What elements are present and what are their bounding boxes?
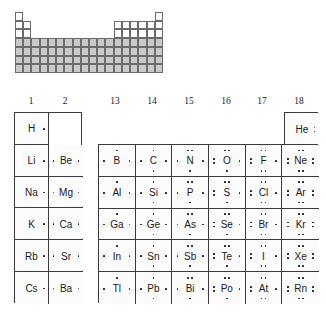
valence-electron-dot — [312, 194, 314, 196]
mini-table-cell — [40, 64, 48, 73]
valence-electron-dot — [312, 226, 314, 228]
valence-electron-dot — [265, 150, 267, 152]
valence-electron-dot — [202, 288, 204, 290]
valence-electron-dot — [213, 190, 215, 192]
mini-table-cell — [155, 38, 163, 47]
valence-electron-dot — [287, 226, 289, 228]
element-cell-Be[interactable]: Be — [49, 145, 83, 177]
element-cell-Sb[interactable]: Sb — [172, 240, 209, 272]
lewis-symbol-Ge: Ge — [136, 211, 170, 237]
valence-electron-dot — [53, 160, 55, 162]
valence-electron-dot — [312, 190, 314, 192]
element-cell-Pb[interactable]: Pb — [136, 272, 173, 304]
mini-table-cell — [114, 47, 122, 56]
mini-table-cell — [15, 56, 23, 65]
mini-table-cell — [122, 38, 130, 47]
lewis-symbol-Rn: Rn — [284, 275, 318, 301]
element-symbol-F: F — [260, 155, 266, 166]
element-cell-Br[interactable]: Br — [246, 209, 283, 241]
lewis-symbol-N: N — [173, 147, 207, 173]
mini-table-cell — [97, 56, 105, 65]
element-cell-Rn[interactable]: Rn — [282, 272, 319, 304]
valence-electron-dot — [191, 181, 193, 183]
element-cell-In[interactable]: In — [99, 240, 136, 272]
element-cell-O[interactable]: O — [209, 145, 246, 177]
element-symbol-C: C — [150, 155, 157, 166]
valence-electron-dot — [140, 255, 142, 257]
element-cell-At[interactable]: At — [246, 272, 283, 304]
element-cell-Ge[interactable]: Ge — [136, 209, 173, 241]
element-symbol-Na: Na — [25, 187, 38, 198]
valence-electron-dot — [226, 265, 228, 267]
element-cell-Kr[interactable]: Kr — [282, 209, 319, 241]
element-symbol-Al: Al — [112, 187, 121, 198]
mini-table-cell — [147, 56, 155, 65]
element-cell-B[interactable]: B — [99, 145, 136, 177]
element-cell-Sr[interactable]: Sr — [49, 240, 83, 272]
mini-table-cell — [122, 21, 130, 30]
element-cell-Cl[interactable]: Cl — [246, 177, 283, 209]
element-cell-Ne[interactable]: Ne — [282, 145, 319, 177]
element-cell-F[interactable]: F — [246, 145, 283, 177]
valence-electron-dot — [53, 255, 55, 257]
valence-electron-dot — [239, 224, 241, 226]
element-cell-P[interactable]: P — [172, 177, 209, 209]
valence-electron-dot — [275, 255, 277, 257]
lewis-symbol-Xe: Xe — [284, 243, 318, 269]
element-cell-Ga[interactable]: Ga — [99, 209, 136, 241]
valence-electron-dot — [265, 181, 267, 183]
valence-electron-dot — [103, 288, 105, 290]
valence-electron-dot — [250, 226, 252, 228]
element-cell-Ar[interactable]: Ar — [282, 177, 319, 209]
element-cell-Bi[interactable]: Bi — [172, 272, 209, 304]
valence-electron-dot — [187, 245, 189, 247]
element-cell-As[interactable]: As — [172, 209, 209, 241]
group-number-label-17: 17 — [247, 94, 277, 108]
lewis-symbol-Po: Po — [210, 275, 244, 301]
valence-electron-dot — [298, 245, 300, 247]
mini-table-cell — [105, 47, 113, 56]
element-symbol-Si: Si — [149, 187, 158, 198]
mini-table-cell — [122, 29, 130, 38]
element-cell-Mg[interactable]: Mg — [49, 177, 83, 209]
valence-electron-dot — [265, 245, 267, 247]
group-number-label-row: 12131415161718 — [0, 94, 326, 108]
valence-electron-dot — [191, 213, 193, 215]
element-cell-Tl[interactable]: Tl — [99, 272, 136, 304]
element-cell-C[interactable]: C — [136, 145, 173, 177]
element-cell-Te[interactable]: Te — [209, 240, 246, 272]
element-cell-H[interactable]: H — [15, 113, 49, 145]
element-cell-Se[interactable]: Se — [209, 209, 246, 241]
element-symbol-In: In — [113, 250, 121, 261]
element-cell-N[interactable]: N — [172, 145, 209, 177]
lewis-symbol-K: K — [15, 211, 49, 237]
mini-table-cell — [31, 64, 39, 73]
element-cell-Li[interactable]: Li — [15, 145, 49, 177]
element-cell-Ba[interactable]: Ba — [49, 272, 83, 304]
valence-electron-dot — [224, 245, 226, 247]
mini-table-cell — [130, 56, 138, 65]
lewis-symbol-Br: Br — [246, 211, 280, 237]
element-cell-Cs[interactable]: Cs — [15, 272, 49, 304]
valence-electron-dot — [187, 150, 189, 152]
element-cell-Sn[interactable]: Sn — [136, 240, 173, 272]
element-cell-Po[interactable]: Po — [209, 272, 246, 304]
element-cell-Xe[interactable]: Xe — [282, 240, 319, 272]
valence-electron-dot — [213, 226, 215, 228]
element-cell-Si[interactable]: Si — [136, 177, 173, 209]
element-cell-I[interactable]: I — [246, 240, 283, 272]
element-cell-He[interactable]: He — [285, 113, 319, 145]
valence-electron-dot — [103, 160, 105, 162]
valence-electron-dot — [177, 160, 179, 162]
element-cell-Ca[interactable]: Ca — [49, 208, 83, 240]
element-cell-K[interactable]: K — [15, 208, 49, 240]
valence-electron-dot — [226, 170, 228, 172]
mini-table-cell — [97, 64, 105, 73]
element-cell-Rb[interactable]: Rb — [15, 240, 49, 272]
element-cell-Al[interactable]: Al — [99, 177, 136, 209]
mini-table-cell — [155, 21, 163, 30]
valence-electron-dot — [302, 245, 304, 247]
element-cell-Na[interactable]: Na — [15, 177, 49, 209]
element-cell-S[interactable]: S — [209, 177, 246, 209]
valence-electron-dot — [78, 192, 80, 194]
